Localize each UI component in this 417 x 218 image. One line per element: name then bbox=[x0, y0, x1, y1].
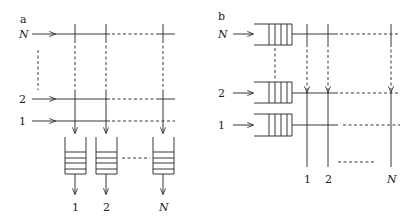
panel-a-output-queue-N bbox=[153, 137, 174, 194]
panel-a-output-queue-1 bbox=[65, 137, 86, 194]
panel-b-input-lines bbox=[292, 34, 400, 125]
panel-a-input-label-1: 1 bbox=[19, 115, 26, 128]
panel-b-input-label-2: 2 bbox=[218, 87, 225, 100]
panel-a-output-label-N: N bbox=[158, 201, 169, 214]
panel-b: b N 2 1 bbox=[217, 10, 400, 186]
panel-b-input-queue-N bbox=[254, 24, 292, 45]
panel-a-input-lines bbox=[32, 34, 175, 121]
panel-a-output-columns bbox=[75, 24, 163, 133]
panel-b-output-label-N: N bbox=[386, 173, 397, 186]
panel-a-output-label-1: 1 bbox=[72, 201, 79, 214]
panel-a-input-label-2: 2 bbox=[19, 93, 26, 106]
panel-b-label: b bbox=[218, 10, 225, 23]
panel-b-input-queue-1 bbox=[254, 114, 292, 136]
panel-a-output-label-2: 2 bbox=[103, 201, 110, 214]
diagram-canvas: a N 2 1 bbox=[0, 0, 417, 218]
panel-b-output-label-2: 2 bbox=[325, 173, 332, 186]
panel-a-input-label-N: N bbox=[18, 28, 29, 41]
panel-a: a N 2 1 bbox=[18, 13, 175, 214]
panel-a-label: a bbox=[20, 13, 27, 26]
panel-b-input-label-N: N bbox=[217, 28, 228, 41]
panel-a-output-queue-2 bbox=[96, 137, 117, 194]
panel-b-input-queue-2 bbox=[254, 82, 292, 103]
panel-b-output-columns bbox=[307, 24, 391, 167]
panel-b-output-label-1: 1 bbox=[304, 173, 311, 186]
panel-b-input-label-1: 1 bbox=[218, 119, 225, 132]
